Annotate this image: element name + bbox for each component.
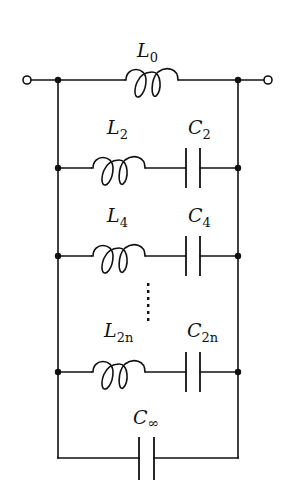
label-l2n: L2n <box>103 319 134 345</box>
circuit-diagram: L0 L2 C2 L4 <box>0 0 294 504</box>
branch-l4-c4 <box>58 236 238 276</box>
input-terminal[interactable] <box>23 76 31 84</box>
output-terminal[interactable] <box>264 76 272 84</box>
inductor-l2 <box>91 157 146 185</box>
inductor-l0 <box>124 69 179 97</box>
branch-l2n-c2n <box>58 352 238 392</box>
label-c4: C4 <box>188 204 211 230</box>
label-l4: L4 <box>106 204 128 230</box>
label-l0: L0 <box>136 39 158 65</box>
inductor-l2n <box>91 361 146 389</box>
label-c2n: C2n <box>187 319 219 345</box>
inductor-l4 <box>91 245 146 273</box>
branch-c-inf <box>58 437 238 480</box>
label-cinf: C∞ <box>133 406 159 431</box>
vertical-ellipsis <box>147 283 149 321</box>
branch-l2-c2 <box>58 148 238 188</box>
label-l2: L2 <box>106 116 128 142</box>
label-c2: C2 <box>188 116 211 142</box>
